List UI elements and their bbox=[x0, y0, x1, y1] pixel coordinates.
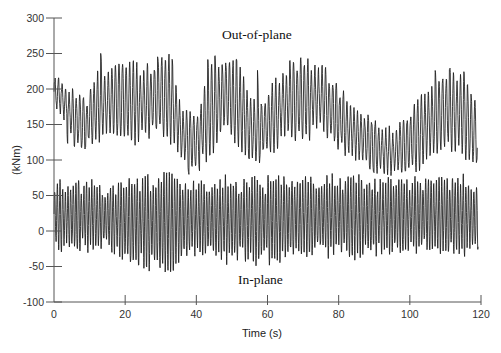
x-ticks: 020406080100120 bbox=[51, 295, 490, 320]
annotation-out-of-plane: Out-of-plane bbox=[222, 27, 292, 42]
y-tick-label: 150 bbox=[26, 118, 44, 130]
chart: -100-50050100150200250300 (kNm) 02040608… bbox=[0, 0, 501, 353]
y-tick-label: -100 bbox=[23, 296, 44, 308]
y-tick-label: -50 bbox=[29, 260, 44, 272]
x-tick-label: 120 bbox=[472, 308, 490, 320]
y-tick-label: 200 bbox=[26, 83, 44, 95]
y-tick-label: 50 bbox=[32, 189, 44, 201]
x-axis-title: Time (s) bbox=[242, 327, 282, 339]
y-ticks: -100-50050100150200250300 bbox=[23, 12, 62, 308]
y-axis-title: (kNm) bbox=[10, 145, 22, 175]
x-tick-label: 100 bbox=[401, 308, 419, 320]
x-tick-label: 20 bbox=[119, 308, 131, 320]
y-tick-label: 300 bbox=[26, 12, 44, 24]
series-out-of-plane-line bbox=[54, 53, 477, 175]
y-tick-label: 100 bbox=[26, 154, 44, 166]
y-axis: -100-50050100150200250300 (kNm) bbox=[10, 12, 62, 308]
x-tick-label: 60 bbox=[262, 308, 274, 320]
x-tick-label: 0 bbox=[51, 308, 57, 320]
y-tick-label: 250 bbox=[26, 47, 44, 59]
series-in-plane-line bbox=[54, 172, 478, 272]
x-tick-label: 80 bbox=[333, 308, 345, 320]
x-axis: 020406080100120 Time (s) bbox=[51, 295, 490, 339]
annotation-in-plane: In-plane bbox=[238, 272, 283, 287]
x-tick-label: 40 bbox=[190, 308, 202, 320]
plot-area bbox=[54, 53, 478, 272]
y-tick-label: 0 bbox=[38, 225, 44, 237]
